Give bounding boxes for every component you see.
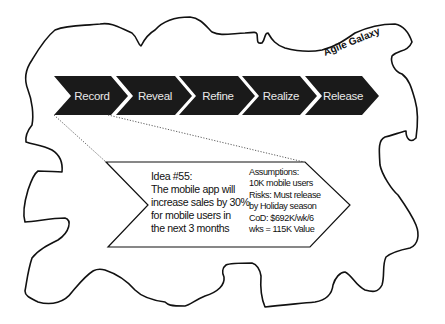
idea-line-1: The mobile app will xyxy=(151,183,251,196)
idea-details: Assumptions: 10K mobile users Risks: Mus… xyxy=(249,167,324,235)
zoom-line-left xyxy=(54,115,106,162)
details-line-5: CoD: $692K/wk/6 xyxy=(249,213,324,224)
details-line-3: Risks: Must release xyxy=(249,190,324,201)
chevron-label-refine: Refine xyxy=(202,90,233,102)
chevron-label-record: Record xyxy=(74,90,109,102)
zoom-line-right xyxy=(108,115,304,162)
agile-galaxy-diagram: Record Reveal Refine Realize Release Agi… xyxy=(0,0,445,324)
idea-line-2: increase sales by 30% xyxy=(151,196,251,209)
idea-line-4: the next 3 months xyxy=(151,222,251,235)
details-line-4: by Holiday season xyxy=(249,201,324,212)
details-line-2: 10K mobile users xyxy=(249,178,324,189)
details-line-1: Assumptions: xyxy=(249,167,324,178)
process-chevrons: Record Reveal Refine Realize Release xyxy=(54,76,379,115)
idea-title: Idea #55: xyxy=(151,170,251,183)
idea-description: Idea #55: The mobile app will increase s… xyxy=(151,170,251,235)
idea-line-3: for mobile users in xyxy=(151,209,251,222)
chevron-label-realize: Realize xyxy=(263,90,299,102)
galaxy-label: Agile Galaxy xyxy=(322,25,382,58)
chevron-label-reveal: Reveal xyxy=(138,90,172,102)
details-line-6: wks = 115K Value xyxy=(249,224,324,235)
chevron-label-release: Release xyxy=(323,90,363,102)
